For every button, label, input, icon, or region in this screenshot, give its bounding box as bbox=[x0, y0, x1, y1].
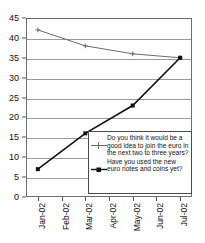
data-point-marker bbox=[36, 167, 40, 171]
x-tick-mark bbox=[62, 197, 63, 201]
data-point-marker bbox=[178, 56, 182, 60]
data-point-marker bbox=[83, 43, 88, 48]
legend-marker-square-black-icon bbox=[91, 160, 107, 169]
data-point-marker bbox=[130, 51, 135, 56]
y-tick-label: 20 bbox=[9, 112, 19, 122]
y-tick-label: 10 bbox=[9, 152, 19, 162]
y-axis: 051015202530354045 bbox=[0, 0, 26, 243]
series-line-0 bbox=[38, 30, 180, 58]
data-point-marker bbox=[35, 28, 40, 33]
x-tick-label: Jun-02 bbox=[155, 203, 165, 229]
legend-label-euro-notes: Have you used the new euro notes and coi… bbox=[107, 158, 189, 173]
x-tick-label: Feb-02 bbox=[61, 203, 71, 230]
x-tick-label: Apr-02 bbox=[108, 203, 118, 229]
data-point-marker bbox=[83, 131, 87, 135]
legend-item-euro-join: Do you think it would be a good idea to … bbox=[91, 134, 189, 157]
line-chart: 051015202530354045 Jan-02Feb-02Mar-02Apr… bbox=[0, 0, 205, 243]
x-axis: Jan-02Feb-02Mar-02Apr-02May-02Jun-02Jul-… bbox=[26, 197, 192, 243]
x-tick-mark bbox=[156, 197, 157, 201]
x-tick-label: Mar-02 bbox=[84, 203, 94, 230]
chart-legend: Do you think it would be a good idea to … bbox=[88, 131, 192, 194]
x-tick-label: Jul-02 bbox=[179, 203, 189, 226]
data-point-marker bbox=[131, 104, 135, 108]
x-tick-label: May-02 bbox=[132, 203, 142, 231]
x-tick-mark bbox=[109, 197, 110, 201]
x-tick-mark bbox=[180, 197, 181, 201]
x-tick-label: Jan-02 bbox=[37, 203, 47, 229]
y-tick-label: 25 bbox=[9, 93, 19, 103]
legend-label-euro-join: Do you think it would be a good idea to … bbox=[107, 134, 189, 157]
x-tick-mark bbox=[133, 197, 134, 201]
y-tick-label: 35 bbox=[9, 53, 19, 63]
y-tick-label: 30 bbox=[9, 73, 19, 83]
x-tick-mark bbox=[38, 197, 39, 201]
y-tick-label: 0 bbox=[14, 192, 19, 202]
y-tick-label: 40 bbox=[9, 33, 19, 43]
x-tick-mark bbox=[85, 197, 86, 201]
legend-marker-plus-gray-icon bbox=[91, 136, 107, 145]
y-tick-label: 15 bbox=[9, 132, 19, 142]
y-tick-label: 5 bbox=[14, 172, 19, 182]
y-tick-label: 45 bbox=[9, 13, 19, 23]
legend-item-euro-notes: Have you used the new euro notes and coi… bbox=[91, 158, 189, 173]
